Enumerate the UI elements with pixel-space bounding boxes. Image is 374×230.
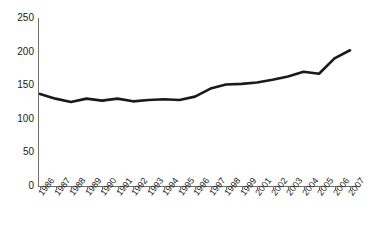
y-axis-tick-label: 50 xyxy=(0,147,34,157)
x-axis-tick-label: 2007 xyxy=(347,176,366,197)
y-axis-tick-label: 250 xyxy=(0,13,34,23)
y-axis-tick-label: 100 xyxy=(0,114,34,124)
line-chart: 050100150200250 198619871988198919901991… xyxy=(0,0,374,230)
y-axis-tick-label: 200 xyxy=(0,47,34,57)
data-series-line xyxy=(0,0,374,230)
y-axis-line xyxy=(38,18,39,186)
series-polyline xyxy=(40,50,350,102)
y-axis-tick-label: 150 xyxy=(0,80,34,90)
y-axis-tick-label: 0 xyxy=(0,181,34,191)
